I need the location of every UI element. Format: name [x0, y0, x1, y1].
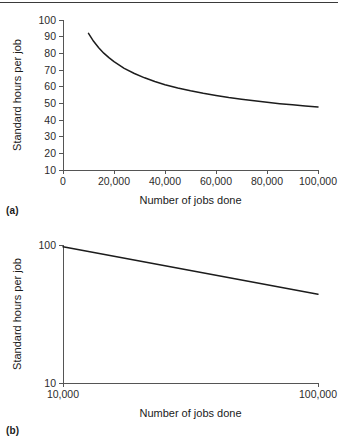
y-tick-label: 10	[44, 164, 56, 176]
x-tick-label: 100,000	[299, 175, 337, 187]
x-tick-label: 20,000	[98, 175, 130, 187]
y-tick-label: 70	[44, 64, 56, 76]
y-tick-label: 100	[38, 14, 56, 26]
data-series-line-0	[89, 33, 319, 107]
panel-caption-a: (a)	[6, 205, 19, 216]
data-series-line-0	[63, 247, 318, 294]
header-divider	[0, 2, 338, 3]
x-tick-label: 10,000	[47, 388, 79, 400]
y-tick-label: 40	[44, 114, 56, 126]
y-tick-label: 10	[44, 377, 56, 389]
x-tick-label: 100,000	[299, 388, 337, 400]
y-axis-title: Standard hours per job	[11, 258, 23, 370]
y-tick-label: 80	[44, 47, 56, 59]
x-axis-title: Number of jobs done	[139, 194, 241, 206]
y-tick-label: 30	[44, 130, 56, 142]
x-tick-label: 60,000	[200, 175, 232, 187]
y-axis-title: Standard hours per job	[11, 39, 23, 151]
chart-b-plot: 1010010,000100,000Number of jobs doneSta…	[0, 228, 348, 438]
x-tick-label: 0	[60, 175, 66, 187]
chart-b-container: 1010010,000100,000Number of jobs doneSta…	[0, 228, 348, 438]
y-tick-label: 100	[38, 239, 56, 251]
x-tick-label: 80,000	[251, 175, 283, 187]
x-axis-title: Number of jobs done	[139, 407, 241, 419]
chart-a-container: 102030405060708090100020,00040,00060,000…	[0, 12, 348, 212]
y-tick-label: 90	[44, 30, 56, 42]
panel-caption-b: (b)	[6, 425, 19, 436]
y-tick-label: 60	[44, 80, 56, 92]
y-tick-label: 50	[44, 97, 56, 109]
x-tick-label: 40,000	[149, 175, 181, 187]
chart-a-plot: 102030405060708090100020,00040,00060,000…	[0, 12, 348, 212]
y-tick-label: 20	[44, 147, 56, 159]
